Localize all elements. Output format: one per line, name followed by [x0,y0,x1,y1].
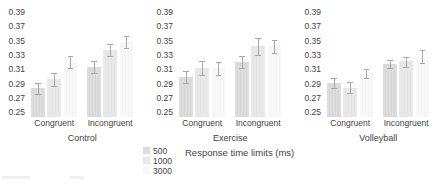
error-bar-cap [124,48,129,49]
y-tick-label: 0.35 [0,37,25,46]
error-bar-cap [420,63,425,64]
panel-volleyball: 0.250.270.290.310.330.350.370.39Congruen… [296,0,444,145]
error-bar [242,56,243,68]
bar-3000ms-incongruent [416,57,429,117]
x-axis-label-incongruent: Incongruent [75,119,145,128]
error-bar-cap [216,62,221,63]
error-bar [406,57,407,67]
bar-3000ms-congruent [360,74,373,117]
y-tick-label: 0.37 [0,22,25,31]
panel-title: Exercise [190,133,270,143]
bar-3000ms-congruent [64,62,77,117]
error-bar-cap [364,69,369,70]
error-bar [126,36,127,48]
bar-1000ms-incongruent [399,61,412,117]
error-bar [38,83,39,94]
faint-artifact [2,176,30,179]
legend-label-1000: 1000 [153,157,172,166]
error-bar [390,60,391,69]
bar-500ms-incongruent [87,67,100,117]
panel-title: Control [42,133,122,143]
error-bar-cap [272,40,277,41]
panel-exercise: 0.250.270.290.310.330.350.370.39Congruen… [148,0,296,145]
faceted-bar-chart: 0.250.270.290.310.330.350.370.39Congruen… [0,0,444,186]
legend-title: Response time limits (ms) [185,148,294,158]
legend-label-500: 500 [153,147,167,156]
error-bar-cap [347,93,352,94]
y-tick-label: 0.37 [296,22,321,31]
y-tick-label: 0.31 [296,65,321,74]
error-bar [350,82,351,93]
error-bar-cap [216,75,221,76]
error-bar [258,38,259,54]
error-bar-cap [35,94,40,95]
error-bar [186,71,187,84]
y-tick-label: 0.27 [148,94,173,103]
error-bar-cap [68,68,73,69]
error-bar [110,44,111,55]
legend-swatch-1000 [143,157,150,164]
y-tick-label: 0.33 [0,51,25,60]
y-tick-label: 0.39 [296,8,321,17]
x-axis-label-incongruent: Incongruent [371,119,441,128]
x-axis-label-incongruent: Incongruent [223,119,293,128]
y-tick-label: 0.33 [296,51,321,60]
y-tick-label: 0.29 [296,80,321,89]
error-bar-cap [331,78,336,79]
y-tick-label: 0.27 [296,94,321,103]
legend-swatch-500 [143,147,150,154]
error-bar [54,73,55,86]
error-bar-cap [91,73,96,74]
error-bar-cap [68,56,73,57]
y-tick-label: 0.35 [296,37,321,46]
error-bar-cap [403,67,408,68]
legend-swatch-3000 [143,167,150,174]
error-bar-cap [199,61,204,62]
panel-title: Volleyball [338,133,418,143]
error-bar-cap [255,55,260,56]
error-bar-cap [387,60,392,61]
y-tick-label: 0.29 [0,80,25,89]
error-bar-cap [347,82,352,83]
error-bar-cap [51,73,56,74]
error-bar-cap [272,53,277,54]
y-tick-label: 0.31 [148,65,173,74]
error-bar-cap [183,71,188,72]
error-bar-cap [364,78,369,79]
error-bar [274,40,275,53]
bar-500ms-incongruent [235,62,248,117]
y-tick-label: 0.27 [0,94,25,103]
error-bar [202,61,203,75]
error-bar [334,78,335,88]
bar-3000ms-incongruent [120,42,133,117]
y-tick-label: 0.29 [148,80,173,89]
error-bar-cap [124,36,129,37]
error-bar-cap [35,83,40,84]
error-bar [94,61,95,74]
legend: 50010003000 Response time limits (ms) [0,143,444,177]
y-tick-label: 0.37 [148,22,173,31]
bar-1000ms-incongruent [103,50,116,117]
error-bar-cap [199,75,204,76]
error-bar-cap [403,57,408,58]
error-bar-cap [51,86,56,87]
y-tick-label: 0.39 [0,8,25,17]
bar-3000ms-incongruent [268,46,281,117]
y-tick-label: 0.25 [148,108,173,117]
y-tick-label: 0.25 [0,108,25,117]
y-tick-label: 0.31 [0,65,25,74]
y-tick-label: 0.25 [296,108,321,117]
error-bar-cap [107,56,112,57]
error-bar-cap [239,56,244,57]
error-bar-cap [183,83,188,84]
legend-label-3000: 3000 [153,167,172,176]
y-tick-label: 0.33 [148,51,173,60]
y-tick-label: 0.35 [148,37,173,46]
error-bar-cap [255,38,260,39]
error-bar-cap [420,50,425,51]
error-bar [218,62,219,75]
error-bar-cap [387,68,392,69]
error-bar-cap [331,88,336,89]
bar-500ms-incongruent [383,64,396,117]
error-bar [366,69,367,78]
